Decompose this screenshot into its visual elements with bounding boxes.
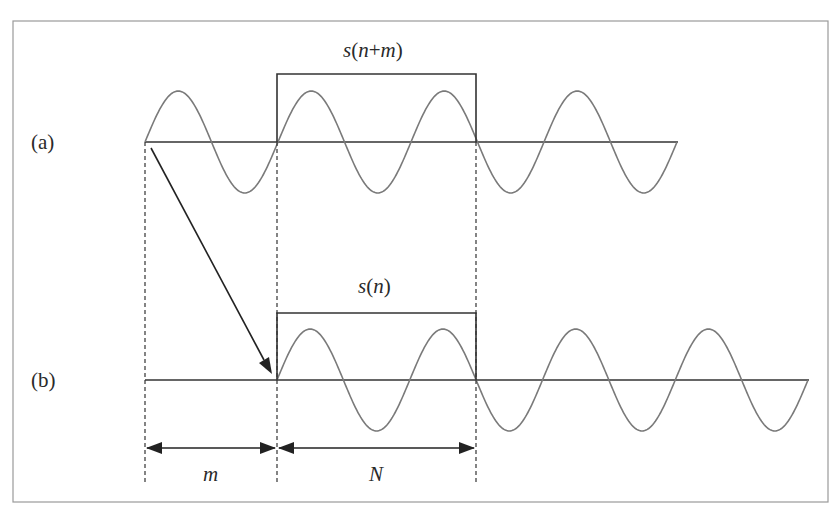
window-b-label: s(n) — [358, 276, 391, 297]
figure-frame — [13, 21, 828, 502]
window-b-label-close: ) — [384, 274, 391, 298]
window-b-label-s: s — [358, 274, 366, 298]
row-a-label: (a) — [31, 132, 54, 153]
window-a-label-m: m — [381, 38, 396, 62]
window-a-label-n: n — [358, 38, 369, 62]
window-b-label-n: n — [373, 274, 384, 298]
window-a-label-s: s — [343, 38, 351, 62]
window-a-label-close: ) — [396, 38, 403, 62]
dimension-n-left-arrowhead-icon — [278, 442, 294, 454]
window-length-n-label: N — [369, 464, 383, 485]
window-a-label: s(n+m) — [343, 40, 403, 61]
row-b-label: (b) — [31, 370, 56, 391]
dimension-m-right-arrowhead-icon — [260, 442, 276, 454]
dimension-n-right-arrowhead-icon — [459, 442, 475, 454]
dimension-m-left-arrowhead-icon — [146, 442, 162, 454]
shift-m-label: m — [203, 464, 218, 485]
window-b — [277, 313, 476, 380]
shift-arrow — [151, 148, 264, 360]
window-a — [277, 74, 476, 142]
shift-arrowhead-icon — [259, 357, 272, 374]
window-a-label-plus: + — [369, 38, 381, 62]
shift-window-diagram — [0, 0, 839, 512]
